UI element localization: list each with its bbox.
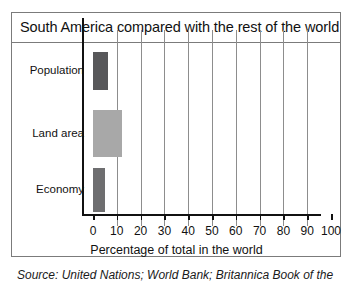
chart-title-bar: South America compared with the rest of … [12, 13, 340, 43]
gridline [164, 30, 165, 226]
gridline [236, 30, 237, 226]
category-label: Economy [36, 183, 84, 195]
bar [93, 52, 108, 90]
chart-figure: South America compared with the rest of … [0, 0, 353, 286]
x-tick-label: 90 [301, 224, 314, 238]
category-label: Land area [32, 127, 84, 139]
gridline [141, 30, 142, 226]
x-tick-label: 10 [110, 224, 123, 238]
x-axis-title: Percentage of total in the world [0, 243, 353, 257]
x-axis-line [82, 214, 321, 216]
x-tick-label: 70 [253, 224, 266, 238]
bar [93, 110, 122, 157]
x-axis-tick [331, 214, 333, 220]
x-tick-label: 30 [158, 224, 171, 238]
x-tick-label: 40 [182, 224, 195, 238]
x-tick-label: 80 [277, 224, 290, 238]
x-tick-label: 100 [321, 224, 341, 238]
category-label: Population [30, 64, 84, 76]
gridline [260, 30, 261, 226]
x-tick-label: 50 [205, 224, 218, 238]
x-tick-label: 0 [90, 224, 97, 238]
x-tick-label: 20 [134, 224, 147, 238]
chart-title: South America compared with the rest of … [12, 20, 339, 35]
source-note: Source: United Nations; World Bank; Brit… [17, 268, 333, 282]
x-tick-label: 60 [229, 224, 242, 238]
bar [93, 168, 105, 212]
gridline [212, 30, 213, 226]
gridline [307, 30, 308, 226]
gridline [188, 30, 189, 226]
gridline [283, 30, 284, 226]
